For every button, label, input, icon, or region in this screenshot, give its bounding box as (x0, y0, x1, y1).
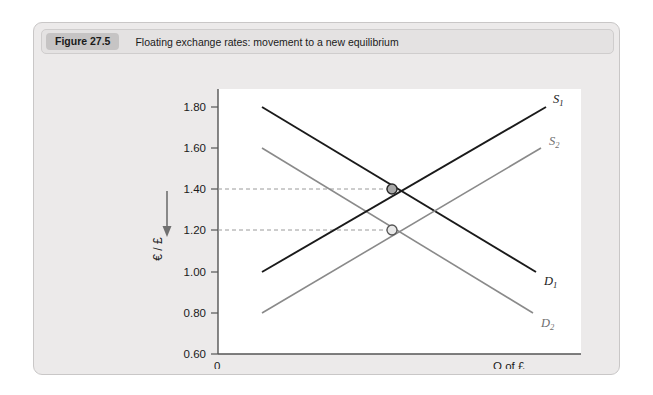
y-axis-ticks (211, 107, 218, 354)
chart-plot-area: € / £ 1.80 1.60 1.40 (41, 59, 614, 369)
y-tick-100: 1.00 (184, 266, 206, 278)
figure-number-badge: Figure 27.5 (46, 33, 119, 51)
equilibrium-marker-new (387, 225, 397, 235)
exchange-rate-chart: 1.80 1.60 1.40 1.20 1.00 0.80 0.60 (41, 59, 614, 369)
figure-card: Figure 27.5 Floating exchange rates: mov… (33, 22, 620, 375)
equilibrium-marker-original (387, 184, 397, 194)
figure-header: Figure 27.5 Floating exchange rates: mov… (41, 29, 614, 54)
y-tick-140: 1.40 (184, 183, 206, 195)
depreciation-arrow (163, 191, 172, 237)
figure-caption: Floating exchange rates: movement to a n… (135, 36, 398, 48)
x-axis-title: Q of £ (493, 360, 525, 369)
y-tick-180: 1.80 (184, 101, 206, 113)
origin-label: 0 (214, 360, 220, 369)
plot-background (218, 89, 581, 354)
y-tick-080: 0.80 (184, 307, 206, 319)
y-tick-120: 1.20 (184, 224, 206, 236)
y-tick-060: 0.60 (184, 348, 206, 360)
y-tick-160: 1.60 (184, 142, 206, 154)
y-axis-tick-labels: 1.80 1.60 1.40 1.20 1.00 0.80 0.60 (184, 101, 206, 360)
